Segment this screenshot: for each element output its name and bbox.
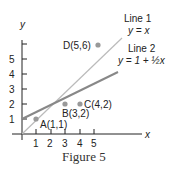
point-b: [62, 101, 67, 106]
x-tick-5: 5: [91, 138, 97, 149]
figure-caption: Figure 5: [62, 149, 106, 164]
y-axis-label: y: [19, 19, 26, 30]
line-1-equation: y = x: [127, 25, 150, 36]
y-ticks: [22, 44, 27, 119]
point-c: [77, 101, 82, 106]
line-2-equation: y = 1 + ½x: [117, 55, 166, 66]
point-a-label: A(1,1): [40, 119, 67, 130]
line-2-name: Line 2: [128, 43, 156, 54]
line-1-name: Line 1: [124, 13, 152, 24]
y-tick-1: 1: [9, 114, 15, 125]
y-tick-5: 5: [9, 54, 15, 65]
x-tick-1: 1: [33, 138, 39, 149]
x-axis-label: x: [144, 129, 151, 140]
x-tick-2: 2: [47, 138, 53, 149]
x-tick-4: 4: [77, 138, 83, 149]
y-tick-3: 3: [9, 84, 15, 95]
point-d: [95, 42, 100, 47]
point-d-label: D(5,6): [63, 40, 91, 51]
x-tick-3: 3: [62, 138, 68, 149]
figure-diagram: y x 1 2 3 4 5 1 2 3 4 5 A(1,1) B(3,2) C(…: [0, 0, 175, 174]
y-tick-4: 4: [9, 69, 15, 80]
point-c-label: C(4,2): [84, 99, 112, 110]
point-a: [33, 116, 38, 121]
y-tick-2: 2: [9, 99, 15, 110]
